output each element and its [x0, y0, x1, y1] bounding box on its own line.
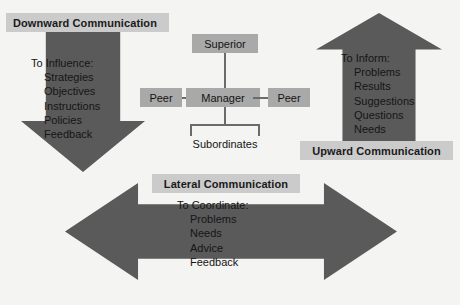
org-label-subordinates: Subordinates	[170, 138, 280, 150]
org-node-manager: Manager	[186, 88, 260, 107]
lateral-heading: To Coordinate:	[177, 198, 249, 212]
lateral-arrow-text: To Coordinate: Problems Needs Advice Fee…	[177, 198, 249, 269]
lateral-item-1: Needs	[190, 226, 249, 240]
downward-item-0: Strategies	[44, 70, 100, 84]
connector-subordinates-tick-left	[190, 124, 192, 136]
org-chart: Superior Peer Manager Peer Subordinates	[140, 34, 320, 156]
downward-communication-label: Downward Communication	[6, 13, 169, 32]
upward-item-0: Problems	[354, 65, 415, 79]
upward-item-4: Needs	[354, 122, 415, 136]
org-node-peer-left: Peer	[140, 88, 182, 107]
connector-superior-manager	[224, 53, 226, 88]
org-node-peer-right: Peer	[268, 88, 310, 107]
upward-heading: To Inform:	[341, 51, 415, 65]
connector-subordinates-bracket	[190, 124, 260, 126]
lateral-item-2: Advice	[190, 241, 249, 255]
upward-item-1: Results	[354, 79, 415, 93]
downward-arrow-text: To Influence: Strategies Objectives Inst…	[31, 56, 100, 141]
upward-communication-label: Upward Communication	[300, 141, 453, 160]
communication-directions-diagram: To Influence: Strategies Objectives Inst…	[0, 0, 460, 305]
org-node-superior: Superior	[192, 34, 258, 53]
upward-item-2: Suggestions	[354, 94, 415, 108]
upward-arrow-text: To Inform: Problems Results Suggestions …	[341, 51, 415, 136]
connector-manager-subordinates	[224, 107, 226, 125]
connector-subordinates-tick-right	[258, 124, 260, 136]
lateral-item-0: Problems	[190, 212, 249, 226]
upward-item-3: Questions	[354, 108, 415, 122]
lateral-item-3: Feedback	[190, 255, 249, 269]
downward-heading: To Influence:	[31, 56, 100, 70]
downward-item-2: Instructions	[44, 99, 100, 113]
lateral-communication-label: Lateral Communication	[152, 174, 300, 193]
downward-item-1: Objectives	[44, 84, 100, 98]
downward-item-3: Policies	[44, 113, 100, 127]
downward-item-4: Feedback	[44, 127, 100, 141]
connector-manager-peer-right	[253, 97, 268, 99]
